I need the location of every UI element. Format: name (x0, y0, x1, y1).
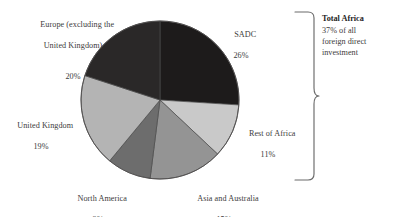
slice-label-rest-of-africa-name: Rest of Africa (249, 129, 296, 138)
slice-label-asia-and-australia: Asia and Australia 15% (176, 183, 272, 217)
annotation-line1: 37% of all (322, 25, 392, 36)
slice-label-sadc-name: SADC (234, 30, 256, 39)
slice-label-asia-and-australia-percent: 15% (176, 215, 272, 218)
slice-label-united-kingdom-name: United Kingdom (17, 121, 73, 130)
slice-label-europe: Europe (excluding the United Kingdom) 20… (14, 9, 132, 104)
annotation-line2: foreign direct (322, 36, 392, 47)
slice-label-europe-line1: Europe (excluding the (40, 20, 114, 29)
slice-label-north-america: North America 9% (56, 183, 140, 217)
chart-canvas: Europe (excluding the United Kingdom) 20… (0, 0, 395, 217)
slice-label-north-america-percent: 9% (56, 215, 140, 218)
annotation-title: Total Africa (322, 13, 392, 24)
slice-label-united-kingdom-percent: 19% (2, 142, 80, 153)
curly-brace-icon (292, 10, 320, 182)
slice-label-asia-and-australia-name: Asia and Australia (197, 194, 258, 203)
slice-label-europe-line2: United Kingdom) (14, 41, 132, 52)
annotation-total-africa: Total Africa 37% of all foreign direct i… (322, 13, 392, 58)
slice-label-united-kingdom: United Kingdom 19% (2, 110, 80, 173)
slice-label-north-america-name: North America (77, 194, 127, 203)
slice-label-sadc-percent: 26% (218, 51, 264, 62)
annotation-line3: investment (322, 47, 392, 58)
slice-label-europe-percent: 20% (14, 72, 132, 83)
slice-label-sadc: SADC 26% (218, 19, 264, 82)
